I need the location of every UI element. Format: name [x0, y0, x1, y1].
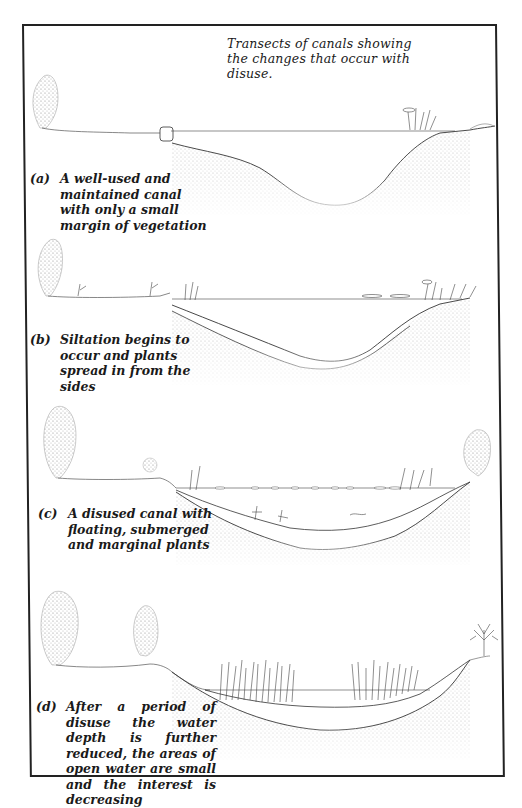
caption-text-b: Siltation begins to occur and plants spr… — [60, 332, 210, 394]
panel-label-b: (b) — [30, 332, 60, 348]
caption-b: (b)Siltation begins to occur and plants … — [30, 332, 210, 394]
bush-icon — [44, 406, 76, 478]
panel-label-c: (c) — [38, 506, 68, 522]
panel-label-a: (a) — [30, 171, 60, 187]
tree-icon — [134, 606, 158, 656]
caption-a: (a)A well-used and maintained canal with… — [30, 171, 210, 233]
caption-text-d: After a period of disuse the water depth… — [66, 699, 216, 808]
bush-icon — [33, 75, 58, 128]
caption-text-c: A disused canal with floating, submerged… — [68, 506, 218, 553]
bush-icon — [464, 430, 491, 476]
tree-icon — [470, 624, 498, 656]
submerged-plants-icon — [190, 466, 432, 522]
reed-bed-icon — [220, 660, 418, 702]
caption-c: (c)A disused canal with floating, submer… — [38, 506, 218, 553]
caption-d: (d)After a period of disuse the water de… — [36, 699, 216, 808]
marginal-plants-icon — [403, 108, 436, 130]
bush-icon — [41, 591, 78, 665]
panel-label-d: (d) — [36, 699, 66, 715]
marginal-plants-icon — [362, 280, 476, 300]
shrub-icon — [143, 458, 157, 472]
caption-text-a: A well-used and maintained canal with on… — [60, 171, 210, 233]
bush-icon — [38, 239, 62, 296]
